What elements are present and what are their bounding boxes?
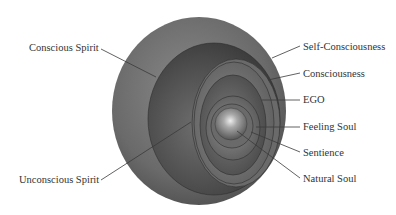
label-unconscious-spirit: Unconscious Spirit [19, 174, 99, 186]
label-conscious-spirit: Conscious Spirit [29, 42, 99, 54]
label-feeling-soul: Feeling Soul [303, 121, 356, 133]
leader-line-self-consciousness [272, 46, 300, 58]
label-self-consciousness: Self-Consciousness [303, 41, 385, 53]
label-natural-soul: Natural Soul [303, 173, 356, 185]
nested-spheres-diagram: Conscious Spirit Unconscious Spirit Self… [0, 0, 396, 215]
label-sentience: Sentience [303, 147, 344, 159]
label-ego: EGO [303, 94, 325, 106]
label-consciousness: Consciousness [303, 68, 365, 80]
